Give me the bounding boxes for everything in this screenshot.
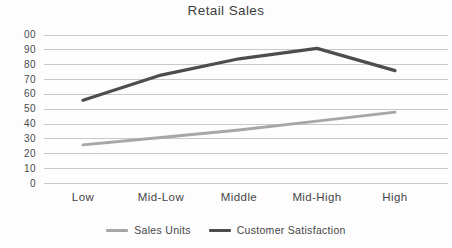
x-category-label-high: High xyxy=(355,191,435,203)
legend-label: Sales Units xyxy=(134,224,190,236)
legend-swatch xyxy=(106,229,128,232)
gridline xyxy=(44,49,448,50)
y-tick-label: 60 xyxy=(2,88,36,100)
gridline xyxy=(44,183,448,184)
gridline xyxy=(44,153,448,154)
y-tick-label: 40 xyxy=(2,118,36,130)
gridline xyxy=(44,138,448,139)
x-category-label-middle: Middle xyxy=(199,191,279,203)
gridline xyxy=(44,35,448,36)
gridline xyxy=(44,94,448,95)
legend-item-customer-satisfaction: Customer Satisfaction xyxy=(209,224,346,236)
x-category-label-low: Low xyxy=(43,191,123,203)
legend-label: Customer Satisfaction xyxy=(237,224,346,236)
gridline xyxy=(44,168,448,169)
y-tick-label: 20 xyxy=(2,148,36,160)
y-tick-label: 70 xyxy=(2,74,36,86)
gridline xyxy=(44,79,448,80)
chart-title: Retail Sales xyxy=(0,3,452,18)
series-line-sales-units xyxy=(83,112,395,145)
gridline xyxy=(44,109,448,110)
series-line-customer-satisfaction xyxy=(83,48,395,100)
y-tick-label: 10 xyxy=(2,163,36,175)
gridline xyxy=(44,64,448,65)
y-tick-label: 00 xyxy=(2,29,36,41)
legend-swatch xyxy=(209,229,231,232)
gridline xyxy=(44,124,448,125)
legend: Sales UnitsCustomer Satisfaction xyxy=(0,224,452,236)
retail-sales-line-chart: Retail Sales 009080706050403020100 LowMi… xyxy=(0,0,452,248)
x-category-label-mid-low: Mid-Low xyxy=(121,191,201,203)
y-tick-label: 0 xyxy=(2,178,36,190)
y-tick-label: 50 xyxy=(2,103,36,115)
y-tick-label: 80 xyxy=(2,59,36,71)
y-tick-label: 90 xyxy=(2,44,36,56)
y-tick-label: 30 xyxy=(2,133,36,145)
legend-item-sales-units: Sales Units xyxy=(106,224,190,236)
x-category-label-mid-high: Mid-High xyxy=(277,191,357,203)
